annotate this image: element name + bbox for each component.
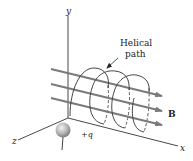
x-axis-label: x (180, 143, 185, 153)
helical-path-label-line1: Helical (120, 38, 152, 48)
y-axis-label: y (65, 6, 72, 16)
helical-path-label-line2: path (125, 49, 146, 59)
helical-motion-diagram: y z x Helical path B +q (0, 0, 193, 161)
charge-label: +q (81, 130, 93, 139)
charge-stem (62, 137, 63, 150)
magnetic-field-label: B (168, 109, 176, 119)
helical-path-pointer (107, 58, 118, 68)
charge-sphere (56, 123, 71, 138)
z-axis-label: z (11, 136, 17, 146)
